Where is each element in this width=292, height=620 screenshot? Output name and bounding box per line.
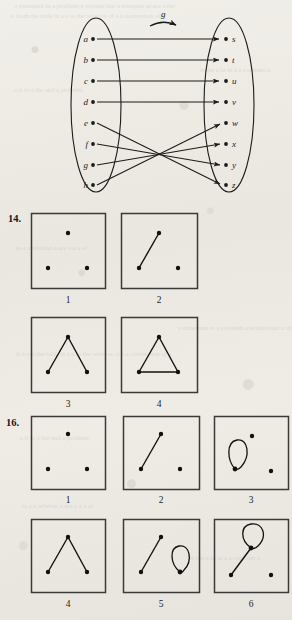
edge-top-bottomright	[68, 537, 87, 572]
vertex-top	[66, 432, 70, 436]
self-loop-top	[243, 524, 264, 549]
figure-16-5: 5	[124, 520, 200, 610]
vertex-bottom-right	[85, 266, 89, 270]
vertex-top	[159, 432, 163, 436]
figure-caption: 3	[249, 495, 254, 505]
domain-dot-a	[91, 37, 95, 41]
vertex-bottom-right	[85, 370, 89, 374]
vertex-top	[66, 535, 70, 539]
domain-label-e: e	[84, 118, 88, 128]
figure-caption: 2	[159, 495, 164, 505]
codomain-label-w: w	[232, 118, 238, 128]
figure-caption: 4	[157, 399, 162, 409]
codomain-dot-y	[224, 163, 228, 167]
figure-caption: 6	[249, 599, 254, 609]
figure-box	[32, 214, 106, 289]
codomain-label-s: s	[232, 34, 236, 44]
figure-box	[32, 520, 106, 593]
domain-label-g: g	[84, 160, 89, 170]
figure-caption: 2	[157, 295, 162, 305]
edge-bottomleft-top	[48, 537, 68, 572]
figure-caption: 3	[66, 399, 71, 409]
vertex-top	[157, 335, 161, 339]
vertex-bottom-right	[178, 570, 183, 575]
vertex-top	[249, 546, 254, 551]
codomain-dot-w	[224, 121, 228, 125]
figure-box	[215, 417, 289, 490]
vertex-bottom-left	[137, 266, 141, 270]
domain-label-b: b	[84, 55, 89, 65]
domain-dot-d	[91, 100, 95, 104]
codomain-label-t: t	[232, 55, 235, 65]
codomain-label-v: v	[232, 97, 236, 107]
vertex-bottom-right	[178, 467, 182, 471]
codomain-label-y: y	[231, 160, 236, 170]
vertex-bottom-right	[85, 570, 89, 574]
codomain-label-u: u	[232, 76, 237, 86]
figure-caption: 4	[66, 599, 71, 609]
domain-label-c: c	[84, 76, 88, 86]
vertex-top	[157, 231, 161, 235]
figures-canvas: g a b c d e f g h	[0, 0, 292, 620]
figure-caption: 1	[66, 295, 71, 305]
vertex-bottom-left	[137, 370, 141, 374]
vertex-top	[159, 535, 163, 539]
vertex-bottom-right	[85, 467, 89, 471]
figure-box	[122, 214, 198, 289]
mapping-arrows-crossing	[97, 123, 220, 185]
edge-bottomleft-top	[141, 434, 161, 469]
vertex-bottom-left	[139, 467, 143, 471]
vertex-bottom-right	[176, 370, 180, 374]
vertex-bottom-right	[269, 573, 273, 577]
figure-box	[32, 417, 106, 490]
domain-label-f: f	[85, 139, 89, 149]
edge-top-bottomright	[68, 337, 87, 372]
figure-box	[124, 520, 200, 593]
figure-16-1: 1	[32, 417, 106, 506]
figure-box	[122, 318, 198, 393]
domain-ellipse	[71, 18, 121, 192]
vertex-top	[66, 231, 70, 235]
vertex-bottom-left	[46, 370, 50, 374]
exercise-14-group: 14. 1 2	[8, 213, 198, 409]
page-stage: g a b c d e f g h	[0, 0, 292, 620]
codomain-dot-s	[224, 37, 228, 41]
domain-label-d: d	[84, 97, 89, 107]
exercise-16-group: 16. 1 2	[6, 417, 289, 610]
codomain-label-x: x	[231, 139, 236, 149]
figure-14-3: 3	[32, 318, 106, 410]
figure-16-3: 3	[215, 417, 289, 506]
codomain-dot-t	[224, 58, 228, 62]
vertex-bottom-left	[233, 467, 238, 472]
vertex-bottom-left	[46, 467, 50, 471]
vertex-bottom-left	[46, 570, 50, 574]
edge-bottomleft-top	[231, 548, 251, 575]
codomain-ellipse	[204, 18, 254, 192]
codomain-dot-u	[224, 79, 228, 83]
figure-caption: 5	[159, 599, 164, 609]
edge-bottomleft-top	[139, 233, 159, 268]
codomain-dot-x	[224, 142, 228, 146]
vertex-bottom-left	[46, 266, 50, 270]
exercise-14-number: 14.	[8, 213, 22, 224]
edge-bottomleft-top	[139, 337, 159, 372]
figure-14-2: 2	[122, 214, 198, 306]
edge-bottomleft-top	[141, 537, 161, 572]
exercise-16-number: 16.	[6, 417, 20, 428]
domain-elements: a b c d e f g h	[84, 34, 95, 190]
figure-box	[124, 417, 200, 490]
self-loop-bottom-right	[172, 546, 189, 573]
vertex-bottom-left	[229, 573, 233, 577]
codomain-elements: s t u v w x y z	[224, 34, 238, 190]
codomain-dot-z	[224, 183, 228, 187]
domain-dot-f	[91, 142, 95, 146]
edge-top-bottomright	[159, 337, 178, 372]
arrow-h-to-w	[97, 124, 220, 185]
vertex-bottom-right	[176, 266, 180, 270]
domain-label-a: a	[84, 34, 89, 44]
edge-bottomleft-top	[48, 337, 68, 372]
figure-16-6: 6	[215, 520, 289, 610]
domain-dot-e	[91, 121, 95, 125]
vertex-top	[66, 335, 70, 339]
self-loop-bottom-left	[229, 440, 247, 470]
